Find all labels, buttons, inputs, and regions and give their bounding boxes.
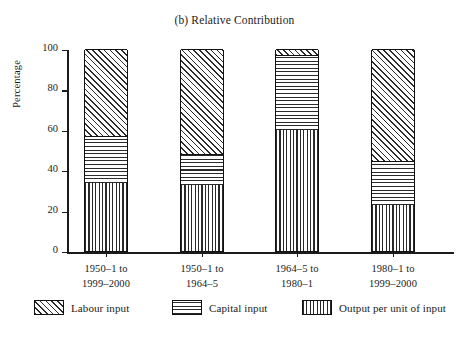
x-axis-tick [297,252,298,257]
bar-segment[interactable] [181,185,223,252]
legend-label: Output per unit of input [339,302,446,314]
y-axis-tick: 40 [62,171,67,172]
chart-title: (b) Relative Contribution [0,14,469,26]
x-axis-tick [393,252,394,257]
stacked-bar[interactable] [84,50,128,252]
y-axis-tick-label: 20 [48,204,59,215]
bar-segment[interactable] [181,154,223,184]
bar-segment[interactable] [85,49,127,136]
y-axis-tick: 60 [62,131,67,132]
bar-segment[interactable] [85,183,127,252]
x-axis-tick [202,252,203,257]
legend-swatch-horizontal [172,300,202,315]
stacked-bar[interactable] [275,50,319,252]
plot-area: 020406080100 1950–1 to1999–20001950–1 to… [67,50,454,254]
bar-segment[interactable] [276,49,318,55]
x-axis-label: 1980–1 to1999–2000 [333,262,453,291]
y-axis-tick-label: 40 [48,163,59,174]
bar-segment[interactable] [276,55,318,130]
legend-item[interactable]: Output per unit of input [302,300,446,315]
bar-segment[interactable] [372,205,414,251]
x-axis-tick [106,252,107,257]
legend-label: Capital input [209,302,267,314]
x-axis-label-line: 1980–1 to [333,262,453,277]
chart-figure: (b) Relative Contribution Percentage 020… [0,0,469,339]
legend-swatch-diagonal [34,300,64,315]
chart-legend: Labour inputCapital inputOutput per unit… [34,300,454,322]
y-axis-tick: 20 [62,212,67,213]
y-axis-tick: 80 [62,90,67,91]
legend-label: Labour input [71,302,129,314]
bar-segment[interactable] [372,161,414,205]
legend-item[interactable]: Capital input [172,300,267,315]
y-axis-tick-label: 60 [48,123,59,134]
y-axis-title: Percentage [11,60,22,108]
stacked-bar[interactable] [371,50,415,252]
y-axis-tick: 0 [62,252,67,253]
bar-segment[interactable] [372,49,414,160]
y-axis-tick-label: 0 [53,244,58,255]
y-axis-line [67,50,69,253]
x-axis-label-line: 1999–2000 [333,277,453,292]
y-axis-tick-label: 80 [48,82,59,93]
bar-segment[interactable] [85,136,127,182]
bar-segment[interactable] [181,49,223,154]
stacked-bar[interactable] [180,50,224,252]
legend-item[interactable]: Labour input [34,300,129,315]
legend-swatch-vertical [302,300,332,315]
y-axis-tick-label: 100 [42,42,58,53]
bar-segment[interactable] [276,130,318,251]
y-axis-tick: 100 [62,50,67,51]
